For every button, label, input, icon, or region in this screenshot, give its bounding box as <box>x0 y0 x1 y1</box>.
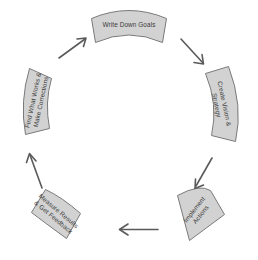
step-measure-results-get-feedback[interactable]: Measure Results & Get Feedback <box>32 190 81 239</box>
step-find-what-works-make-corrections[interactable]: Find What Works & Make Corrections <box>23 69 51 135</box>
step-write-down-goals[interactable]: Write Down Goals <box>92 11 167 43</box>
arrow-top-left-icon <box>59 38 86 58</box>
step-implement-actions[interactable]: Implement Actions <box>178 188 225 241</box>
arrow-right-bottom-icon <box>195 158 212 189</box>
arrow-bottom-left-icon <box>27 154 43 189</box>
process-cycle-diagram: Write Down Goals Create Vision & Strateg… <box>0 0 258 260</box>
arrow-top-right-icon <box>181 39 204 64</box>
step-create-vision-strategy[interactable]: Create Vision & Strategy <box>206 67 239 142</box>
step-write-down-goals-label: Write Down Goals <box>103 21 156 28</box>
arrow-bottom-icon <box>120 224 159 235</box>
cycle-diagram-canvas: Write Down Goals Create Vision & Strateg… <box>0 0 258 260</box>
